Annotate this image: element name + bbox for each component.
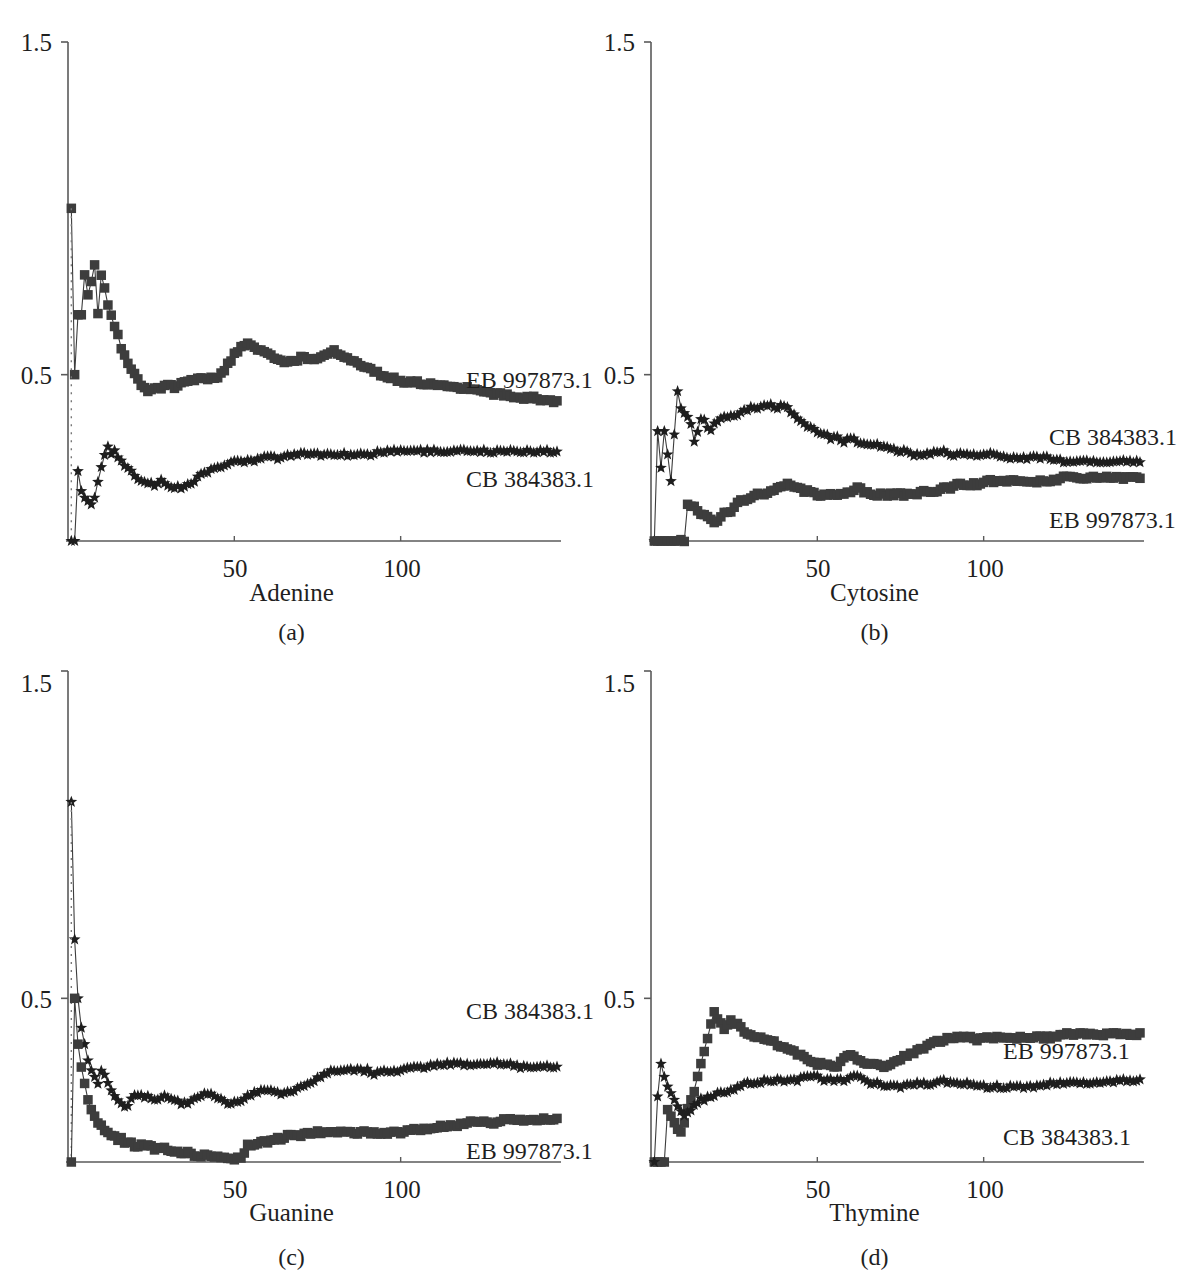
- y-tick-0.5-b: 0.5: [583, 363, 635, 388]
- series-label-eb-b: EB 997873.1: [1049, 508, 1176, 532]
- y-tick-0.5-a: 0.5: [0, 363, 52, 388]
- panel-c: 1.5 0.5 50 100 CB 384383.1 EB 997873.1 G…: [0, 644, 583, 1288]
- panel-caption-b: (b): [583, 620, 1166, 644]
- plot-area-b: [583, 0, 1166, 560]
- y-tick-1.5-b: 1.5: [583, 30, 635, 55]
- y-tick-1.5-c: 1.5: [0, 671, 52, 696]
- panel-caption-a: (a): [0, 620, 583, 644]
- series-label-cb-c: CB 384383.1: [466, 999, 594, 1023]
- x-tick-100-c: 100: [370, 1177, 434, 1202]
- x-tick-100-d: 100: [953, 1177, 1017, 1202]
- y-tick-0.5-d: 0.5: [583, 987, 635, 1012]
- series-label-cb-b: CB 384383.1: [1049, 425, 1177, 449]
- panel-caption-c: (c): [0, 1245, 583, 1269]
- x-tick-50-a: 50: [207, 556, 263, 581]
- panel-d: 1.5 0.5 50 100 EB 997873.1 CB 384383.1 T…: [583, 644, 1166, 1288]
- y-tick-1.5-a: 1.5: [0, 30, 52, 55]
- series-label-cb-d: CB 384383.1: [1003, 1125, 1131, 1149]
- chart-canvas-d: [583, 644, 1166, 1204]
- x-axis-title-a: Adenine: [0, 580, 583, 605]
- y-tick-1.5-d: 1.5: [583, 671, 635, 696]
- plot-area-c: [0, 644, 583, 1204]
- series-label-eb-a: EB 997873.1: [466, 368, 593, 392]
- panel-b: 1.5 0.5 50 100 CB 384383.1 EB 997873.1 C…: [583, 0, 1166, 644]
- x-tick-100-b: 100: [953, 556, 1017, 581]
- series-label-cb-a: CB 384383.1: [466, 467, 594, 491]
- x-axis-title-b: Cytosine: [583, 580, 1166, 605]
- plot-area-d: [583, 644, 1166, 1204]
- chart-canvas-b: [583, 0, 1166, 560]
- x-axis-title-d: Thymine: [583, 1200, 1166, 1225]
- x-axis-title-c: Guanine: [0, 1200, 583, 1225]
- x-tick-50-b: 50: [790, 556, 846, 581]
- x-tick-100-a: 100: [370, 556, 434, 581]
- panel-a: 1.5 0.5 50 100 EB 997873.1 CB 384383.1 A…: [0, 0, 583, 644]
- chart-canvas-c: [0, 644, 583, 1204]
- panel-caption-d: (d): [583, 1245, 1166, 1269]
- y-tick-0.5-c: 0.5: [0, 987, 52, 1012]
- series-label-eb-d: EB 997873.1: [1003, 1039, 1130, 1063]
- series-label-eb-c: EB 997873.1: [466, 1139, 593, 1163]
